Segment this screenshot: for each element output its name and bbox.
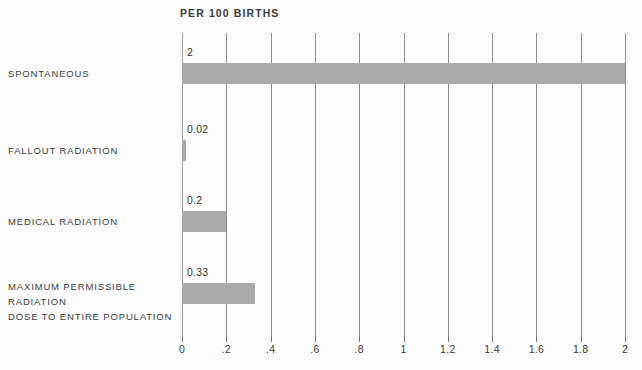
plot-area — [182, 33, 625, 338]
x-axis-tick-label: 2 — [622, 343, 628, 355]
x-axis-tick-labels: 0.2.4.6.811.21.41.61.82 — [182, 343, 625, 359]
category-label: FALLOUT RADIATION — [8, 143, 180, 158]
category-label: MEDICAL RADIATION — [8, 214, 180, 229]
x-axis-tick-label: 1.8 — [573, 343, 589, 355]
bar-value-label: 0.33 — [187, 266, 208, 278]
bar — [182, 140, 186, 161]
x-axis-tick-label: .8 — [355, 343, 364, 355]
x-axis-tick-label: 1.6 — [529, 343, 545, 355]
x-axis-tickmarks — [182, 336, 625, 343]
x-axis-tickmark — [404, 336, 405, 342]
x-axis-tickmark — [226, 336, 227, 342]
bar-chart: PER 100 BIRTHS 0.2.4.6.811.21.41.61.82 2… — [0, 0, 642, 370]
x-axis-tick-label: 1.4 — [484, 343, 500, 355]
x-axis-tickmark — [182, 336, 183, 342]
bar — [182, 283, 255, 304]
x-axis-tickmark — [315, 336, 316, 342]
x-axis-tick-label: 1 — [400, 343, 406, 355]
x-axis-tickmark — [492, 336, 493, 342]
x-axis-tickmark — [359, 336, 360, 342]
x-axis-tick-label: 1.2 — [440, 343, 456, 355]
category-label: SPONTANEOUS — [8, 66, 180, 81]
x-axis-tick-label: .6 — [310, 343, 319, 355]
bar-value-label: 0.02 — [187, 123, 208, 135]
x-axis-tick-label: .4 — [266, 343, 275, 355]
bar — [182, 211, 226, 232]
bar — [182, 63, 625, 84]
x-axis-tickmark — [536, 336, 537, 342]
category-label: MAXIMUM PERMISSIBLE RADIATION DOSE TO EN… — [8, 279, 180, 324]
x-axis-tickmark — [581, 336, 582, 342]
bar-value-label: 0.2 — [187, 194, 202, 206]
chart-title: PER 100 BIRTHS — [180, 7, 279, 19]
x-axis-tickmark — [271, 336, 272, 342]
gridline — [625, 33, 626, 338]
x-axis-tickmark — [448, 336, 449, 342]
x-axis-tick-label: 0 — [179, 343, 185, 355]
x-axis-tickmark — [625, 336, 626, 342]
x-axis-tick-label: .2 — [222, 343, 231, 355]
bar-value-label: 2 — [187, 46, 193, 58]
